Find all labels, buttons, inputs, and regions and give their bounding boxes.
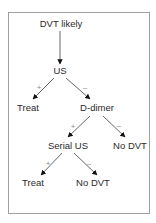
node-us: US	[53, 65, 66, 76]
edge-label-us-ddimer: –	[83, 83, 88, 92]
edge-label-us-treat: +	[37, 83, 42, 92]
edge-label-serial-us-no-dvt: –	[87, 159, 92, 168]
dvt-decision-tree: DVT likely US Treat D-dimer Serial US No…	[0, 0, 156, 223]
node-treat-2: Treat	[22, 177, 44, 188]
edge-label-serial-us-treat: +	[46, 159, 51, 168]
node-serial-us: Serial US	[48, 140, 88, 151]
node-treat-1: Treat	[17, 102, 39, 113]
node-d-dimer: D-dimer	[80, 102, 114, 113]
node-no-dvt-1: No DVT	[113, 140, 147, 151]
edge-label-ddimer-no-dvt: –	[117, 121, 122, 130]
node-dvt-likely: DVT likely	[40, 18, 83, 29]
edge-label-ddimer-serial-us: +	[71, 122, 76, 131]
node-no-dvt-2: No DVT	[76, 177, 110, 188]
